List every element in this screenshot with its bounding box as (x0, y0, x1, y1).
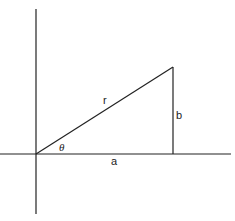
label-b: b (176, 109, 182, 121)
label-r: r (103, 94, 107, 106)
label-theta: θ (59, 141, 65, 153)
label-a: a (111, 155, 118, 167)
hypotenuse-r (36, 67, 173, 154)
triangle-diagram: r b a θ (0, 0, 235, 221)
